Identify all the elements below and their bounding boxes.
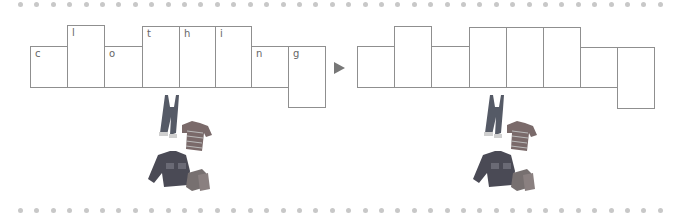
bottom-dotted-border [18, 208, 663, 214]
dot [84, 2, 89, 7]
dot [281, 208, 286, 213]
letter: i [220, 28, 223, 39]
answer-box-3[interactable] [431, 46, 470, 88]
dot [100, 208, 105, 213]
letter: n [256, 48, 262, 59]
dot [477, 208, 482, 213]
dot [559, 208, 564, 213]
dot [379, 208, 384, 213]
dot [84, 208, 89, 213]
letter: l [72, 27, 75, 38]
dot [428, 208, 433, 213]
dot [166, 208, 171, 213]
dot [576, 2, 581, 7]
dot [527, 208, 532, 213]
dot [248, 208, 253, 213]
answer-box-4[interactable] [469, 27, 507, 88]
answer-box-5[interactable] [506, 27, 544, 88]
letter-box-o: o [104, 46, 143, 88]
right-arrow-icon [334, 62, 345, 74]
dot [182, 2, 187, 7]
letter: t [147, 28, 151, 39]
dot [461, 2, 466, 7]
dot [543, 2, 548, 7]
dot [281, 2, 286, 7]
dot [149, 2, 154, 7]
answer-box-6[interactable] [543, 27, 581, 88]
dot [215, 2, 220, 7]
letter-box-l: l [67, 25, 105, 88]
dot [313, 208, 318, 213]
letter: c [35, 48, 41, 59]
dot [149, 208, 154, 213]
answer-box-7[interactable] [580, 47, 618, 88]
answer-box-2[interactable] [394, 26, 432, 88]
dot [34, 2, 39, 7]
dot [494, 2, 499, 7]
dot [133, 2, 138, 7]
dot [297, 208, 302, 213]
dot [658, 2, 663, 7]
dot [18, 208, 23, 213]
dot [576, 208, 581, 213]
dot [34, 208, 39, 213]
dot [330, 208, 335, 213]
dot [379, 2, 384, 7]
dot [592, 2, 597, 7]
dot [412, 208, 417, 213]
answer-box-8[interactable] [617, 47, 655, 109]
dot [215, 208, 220, 213]
dot [313, 2, 318, 7]
dot [625, 2, 630, 7]
letter: g [293, 48, 299, 59]
dot [116, 2, 121, 7]
dot [182, 208, 187, 213]
letter-box-c: c [30, 46, 68, 88]
dot [609, 208, 614, 213]
dot [198, 208, 203, 213]
dot [133, 208, 138, 213]
dot [559, 2, 564, 7]
dot [461, 208, 466, 213]
dot [428, 2, 433, 7]
dot [477, 2, 482, 7]
dot [67, 208, 72, 213]
dot [625, 208, 630, 213]
dot [510, 208, 515, 213]
dot [346, 208, 351, 213]
letter-box-i: i [215, 26, 252, 88]
clothing-illustration-left [140, 93, 230, 198]
dot [198, 2, 203, 7]
dot [264, 208, 269, 213]
dot [100, 2, 105, 7]
dot [395, 208, 400, 213]
dot [641, 208, 646, 213]
dot [116, 208, 121, 213]
dot [51, 208, 56, 213]
dot [166, 2, 171, 7]
dot [543, 208, 548, 213]
dot [510, 2, 515, 7]
dot [231, 208, 236, 213]
dot [297, 2, 302, 7]
dot [445, 208, 450, 213]
letter: o [109, 48, 115, 59]
letter-box-n: n [251, 46, 289, 88]
dot [67, 2, 72, 7]
dot [445, 2, 450, 7]
dot [248, 2, 253, 7]
dot [363, 208, 368, 213]
letter-box-g: g [288, 46, 326, 108]
letter: h [184, 28, 190, 39]
dot [330, 2, 335, 7]
dot [18, 2, 23, 7]
letter-box-t: t [142, 26, 180, 88]
dot [412, 2, 417, 7]
dot [51, 2, 56, 7]
dot [363, 2, 368, 7]
dot [231, 2, 236, 7]
dot [395, 2, 400, 7]
dot [527, 2, 532, 7]
dot [264, 2, 269, 7]
answer-box-1[interactable] [357, 46, 395, 88]
